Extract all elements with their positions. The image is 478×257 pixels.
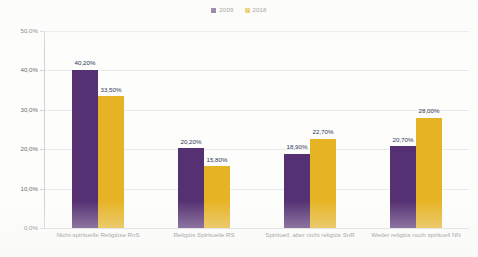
y-axis-tick (40, 110, 44, 111)
y-axis-tick (40, 228, 44, 229)
bar-group: 20,20%15,80% (151, 31, 257, 228)
bar-value-label: 18,90% (287, 144, 308, 150)
axis-baseline (45, 228, 469, 229)
bar-value-label: 33,50% (101, 87, 122, 93)
y-axis-tick (40, 31, 44, 32)
y-axis-tick-label: 40,0% (4, 67, 38, 73)
bar-value-label: 40,20% (75, 60, 96, 66)
y-axis-tick (40, 189, 44, 190)
legend-label-2018: 2018 (253, 7, 267, 13)
bar-2018[interactable] (204, 166, 230, 228)
y-axis-line (44, 31, 45, 229)
y-axis-tick-label: 50,0% (4, 28, 38, 34)
y-axis-tick-label: 30,0% (4, 107, 38, 113)
y-axis-tick (40, 149, 44, 150)
bar-value-label: 15,80% (207, 157, 228, 163)
bar-column: 20,20% (178, 31, 204, 228)
y-axis-labels: 50,0%40,0%30,0%20,0%10,0%0,0% (0, 0, 38, 257)
legend-swatch-2018 (245, 8, 250, 13)
legend-item-2018[interactable]: 2018 (245, 7, 267, 13)
y-axis-tick (40, 70, 44, 71)
legend-swatch-2009 (211, 8, 216, 13)
bar-value-label: 28,00% (419, 108, 440, 114)
x-axis-labels: Nicht-spirituelle Religiöse RnSReligiös … (45, 232, 469, 246)
chart-legend: 2009 2018 (0, 7, 478, 13)
bar-group: 40,20%33,50% (45, 31, 151, 228)
legend-item-2009[interactable]: 2009 (211, 7, 233, 13)
bar-column: 40,20% (72, 31, 98, 228)
bar-2018[interactable] (98, 96, 124, 228)
bar-2018[interactable] (416, 118, 442, 228)
x-axis-category-label: Weder religiös noch spirituell NN (371, 232, 461, 238)
bar-2009[interactable] (390, 146, 416, 228)
bar-column: 15,80% (204, 31, 230, 228)
legend-label-2009: 2009 (219, 7, 233, 13)
y-axis-tick-label: 20,0% (4, 146, 38, 152)
y-axis-tick-label: 10,0% (4, 186, 38, 192)
bar-column: 33,50% (98, 31, 124, 228)
bar-chart: 2009 2018 50,0%40,0%30,0%20,0%10,0%0,0% … (0, 0, 478, 257)
bar-column: 18,90% (284, 31, 310, 228)
bar-column: 20,70% (390, 31, 416, 228)
y-axis-tick-label: 0,0% (4, 225, 38, 231)
bar-2009[interactable] (284, 154, 310, 228)
bar-group-bars: 40,20%33,50% (72, 31, 124, 228)
bar-2009[interactable] (178, 148, 204, 228)
bar-group-bars: 20,20%15,80% (178, 31, 230, 228)
bar-group: 18,90%22,70% (257, 31, 363, 228)
bar-2009[interactable] (72, 70, 98, 228)
bar-column: 22,70% (310, 31, 336, 228)
x-axis-category-label: Spirituell, aber nicht religiös SnR (265, 232, 354, 238)
bar-value-label: 22,70% (313, 129, 334, 135)
bar-2018[interactable] (310, 139, 336, 228)
bar-column: 28,00% (416, 31, 442, 228)
bar-group-bars: 20,70%28,00% (390, 31, 442, 228)
bar-group-bars: 18,90%22,70% (284, 31, 336, 228)
x-axis-category-label: Nicht-spirituelle Religiöse RnS (56, 232, 139, 238)
x-axis-category-label: Religiös Spirituelle RS (173, 232, 234, 238)
plot-area: 40,20%33,50%20,20%15,80%18,90%22,70%20,7… (45, 31, 469, 228)
bar-group: 20,70%28,00% (363, 31, 469, 228)
bar-value-label: 20,20% (181, 139, 202, 145)
bar-value-label: 20,70% (393, 137, 414, 143)
